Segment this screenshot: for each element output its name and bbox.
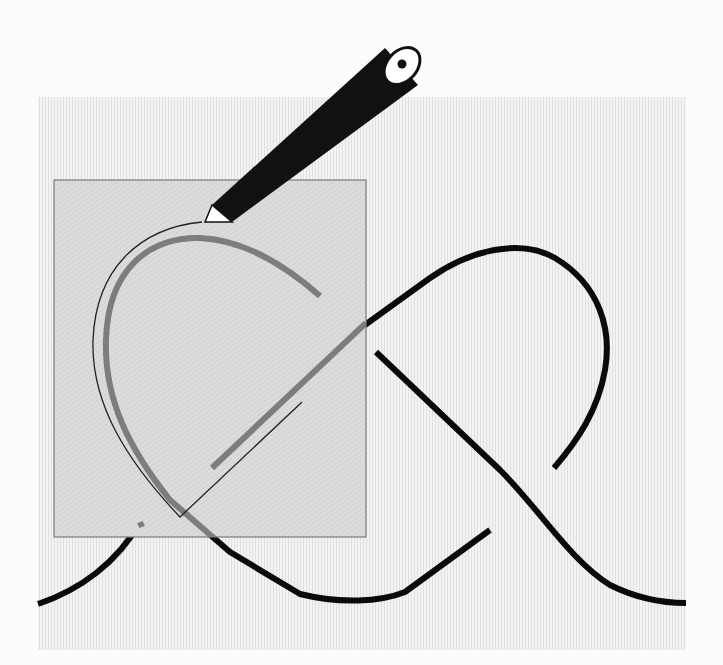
knot-illustration: [0, 0, 723, 665]
overlay-square: [54, 180, 366, 537]
illustration-canvas: [0, 0, 723, 665]
knot-strand-left-tail-under-overlay: [140, 522, 142, 527]
